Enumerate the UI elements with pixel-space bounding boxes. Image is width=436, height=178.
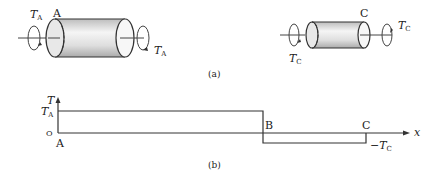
shaft-c	[280, 22, 393, 48]
y-axis-arrow-icon	[56, 97, 61, 103]
torque-plot	[56, 97, 411, 143]
torque-label-c-right: TC	[398, 20, 411, 35]
point-b-label: B	[265, 120, 273, 131]
point-c-label: C	[362, 120, 370, 131]
x-axis-arrow-icon	[403, 131, 410, 136]
point-a-label: A	[56, 138, 64, 149]
torque-step-line	[58, 111, 366, 143]
y-tick-zero: O	[46, 128, 53, 139]
end-label-c: C	[360, 8, 368, 19]
x-axis-label: x	[414, 127, 420, 138]
shaft-a	[18, 19, 149, 57]
caption-b: (b)	[208, 160, 221, 170]
neg-tc-label: −TC	[370, 140, 392, 155]
rotation-arrow-icon	[38, 42, 42, 46]
torque-label-a-left: TA	[30, 9, 42, 24]
y-tick-ta: TA	[41, 106, 53, 121]
torque-label-a-right: TA	[154, 45, 166, 60]
end-label-a: A	[53, 8, 61, 19]
torque-label-c-left: TC	[289, 53, 302, 68]
caption-a: (a)	[208, 69, 220, 79]
